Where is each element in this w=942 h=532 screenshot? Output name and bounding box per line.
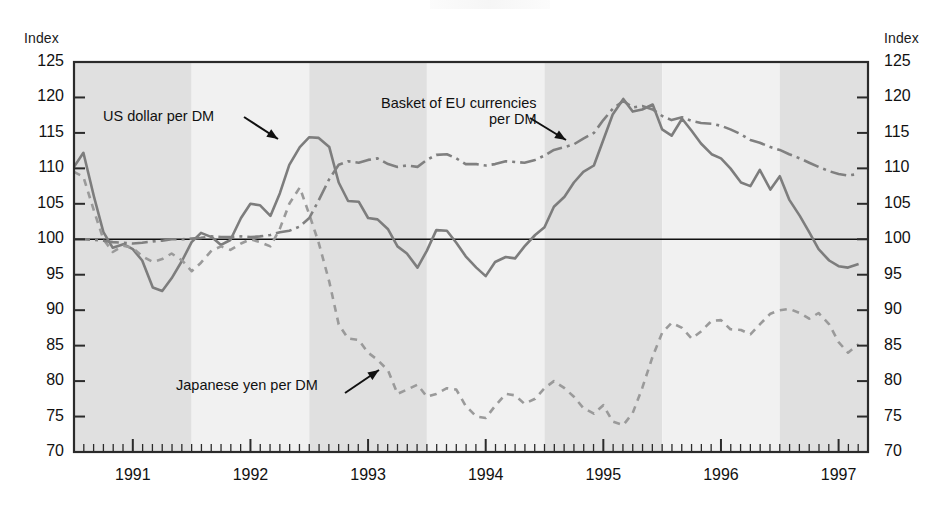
annotation-eu-basket-line2: per DM (489, 111, 537, 127)
x-tick-label-1992: 1992 (215, 466, 285, 484)
y-tick-label-left-70: 70 (20, 442, 64, 460)
annotation-eu-basket: Basket of EU currenciesper DM (381, 95, 537, 127)
x-tick-label-1996: 1996 (686, 466, 756, 484)
annotation-us-dollar: US dollar per DM (103, 108, 214, 124)
y-tick-label-right-85: 85 (884, 336, 928, 354)
y-tick-label-left-85: 85 (20, 336, 64, 354)
x-tick-label-1993: 1993 (333, 466, 403, 484)
y-tick-label-left-75: 75 (20, 407, 64, 425)
y-tick-label-right-110: 110 (884, 158, 928, 176)
y-tick-label-left-95: 95 (20, 265, 64, 283)
y-tick-label-right-105: 105 (884, 194, 928, 212)
plot-canvas (0, 0, 942, 532)
y-tick-label-right-75: 75 (884, 407, 928, 425)
y-tick-label-right-95: 95 (884, 265, 928, 283)
annotation-japanese-yen: Japanese yen per DM (176, 377, 318, 393)
y-tick-label-left-105: 105 (20, 194, 64, 212)
y-tick-label-right-80: 80 (884, 371, 928, 389)
y-tick-label-left-90: 90 (20, 300, 64, 318)
y-tick-label-left-120: 120 (20, 87, 64, 105)
annotation-eu-basket-line1: Basket of EU currencies (381, 95, 537, 111)
chart-figure: Index Index US dollar per DM Basket of E… (0, 0, 942, 532)
x-tick-label-1994: 1994 (451, 466, 521, 484)
y-tick-label-left-125: 125 (20, 52, 64, 70)
y-tick-label-right-100: 100 (884, 229, 928, 247)
y-tick-label-left-100: 100 (20, 229, 64, 247)
x-tick-label-1997: 1997 (804, 466, 874, 484)
y-tick-label-right-70: 70 (884, 442, 928, 460)
x-tick-label-1995: 1995 (568, 466, 638, 484)
y-tick-label-left-110: 110 (20, 158, 64, 176)
x-tick-label-1991: 1991 (98, 466, 168, 484)
y-tick-label-left-80: 80 (20, 371, 64, 389)
y-tick-label-right-125: 125 (884, 52, 928, 70)
y-tick-label-left-115: 115 (20, 123, 64, 141)
shaded-band-6 (780, 62, 868, 452)
y-tick-label-right-120: 120 (884, 87, 928, 105)
y-tick-label-right-115: 115 (884, 123, 928, 141)
y-tick-label-right-90: 90 (884, 300, 928, 318)
